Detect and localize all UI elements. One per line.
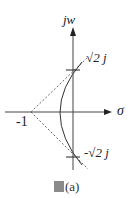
minus-one-label: -1 [16,114,28,130]
imaginary-axis-label: jw [63,12,75,28]
figure-caption: (a) [54,179,79,195]
caption-text: (a) [65,179,79,194]
root-locus-diagram [0,0,136,198]
root-locus-curve [60,62,82,165]
imaginary-axis-arrow-icon [70,27,76,36]
real-axis-arrow-icon [104,109,112,115]
upper-crossing-label: √2 j [86,50,107,66]
lower-asymptote [31,112,88,169]
real-axis-label: σ [117,103,124,119]
lower-crossing-label: -√2 j [84,145,109,161]
caption-glyph-icon [54,181,64,192]
